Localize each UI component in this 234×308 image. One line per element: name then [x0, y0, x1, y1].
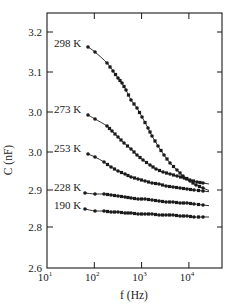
x-tick-label: 103	[132, 270, 147, 283]
data-point	[161, 183, 164, 186]
x-tick-label: 102	[85, 270, 100, 283]
data-point	[146, 126, 150, 130]
series-label: 253 K	[54, 142, 81, 154]
plot-border	[47, 13, 222, 268]
data-point	[93, 155, 97, 159]
data-point	[119, 138, 122, 141]
data-point	[106, 193, 109, 196]
data-point	[150, 181, 154, 185]
data-point	[109, 193, 113, 197]
data-point	[108, 127, 111, 130]
data-point	[113, 194, 116, 197]
data-point	[123, 172, 127, 176]
data-point	[175, 201, 178, 204]
data-point	[164, 184, 168, 188]
data-point	[116, 169, 120, 173]
data-point	[86, 152, 90, 156]
data-point	[143, 197, 147, 201]
data-point	[143, 179, 147, 183]
data-point	[132, 102, 135, 105]
data-point	[150, 198, 154, 202]
y-tick-label: 3.0	[28, 146, 42, 158]
y-axis-title: C (nF)	[2, 145, 15, 176]
data-point	[136, 197, 140, 201]
data-point	[140, 212, 143, 215]
data-point	[129, 147, 133, 151]
data-point	[148, 130, 151, 133]
data-point	[158, 169, 161, 172]
data-point	[111, 69, 115, 73]
data-point	[102, 209, 106, 213]
data-point	[116, 194, 120, 198]
data-point	[126, 174, 129, 177]
data-point	[132, 150, 135, 153]
y-tick-label: 2.6	[28, 262, 42, 274]
data-point	[161, 170, 165, 174]
fit-line	[88, 47, 209, 191]
series-label: 190 K	[54, 199, 81, 211]
y-tick-label: 3.1	[28, 66, 42, 78]
data-point	[133, 212, 136, 215]
data-point	[129, 196, 133, 200]
data-point	[140, 115, 144, 119]
data-point	[161, 213, 164, 216]
data-point	[189, 188, 192, 191]
data-point	[189, 215, 192, 218]
y-tick-label: 2.8	[28, 221, 42, 233]
data-point	[189, 202, 192, 205]
data-point	[135, 106, 139, 110]
data-point	[178, 201, 182, 205]
data-point	[147, 180, 150, 183]
data-point	[105, 61, 109, 65]
data-point	[201, 189, 205, 193]
data-point	[93, 192, 97, 196]
data-point	[154, 182, 157, 185]
data-point	[122, 141, 126, 145]
data-point	[185, 214, 189, 218]
data-point	[195, 180, 199, 184]
data-point	[182, 214, 185, 217]
data-point	[126, 211, 129, 214]
data-point	[162, 153, 166, 157]
series-label: 298 K	[54, 37, 81, 49]
data-series	[83, 45, 209, 219]
x-axis-title: f (Hz)	[120, 289, 148, 302]
data-point	[120, 171, 123, 174]
data-point	[182, 176, 186, 180]
data-point	[182, 201, 185, 204]
data-point	[159, 149, 162, 152]
data-point	[164, 213, 168, 217]
data-point	[86, 45, 90, 49]
data-point	[201, 203, 205, 207]
data-point	[118, 79, 121, 82]
data-point	[197, 215, 200, 218]
data-point	[201, 181, 205, 185]
data-point	[102, 160, 106, 164]
data-point	[106, 163, 109, 166]
data-point	[140, 197, 143, 200]
data-point	[168, 161, 172, 165]
data-point	[113, 132, 116, 135]
data-point	[126, 144, 129, 147]
data-point	[198, 185, 201, 188]
data-point	[154, 199, 157, 202]
data-point	[185, 177, 188, 180]
data-point	[192, 188, 196, 192]
data-point	[182, 187, 185, 190]
data-point	[126, 196, 129, 199]
data-point	[175, 174, 179, 178]
data-point	[171, 200, 175, 204]
data-point	[147, 212, 150, 215]
series-298k	[86, 45, 209, 190]
data-point	[83, 191, 87, 195]
data-point	[135, 153, 139, 157]
data-point	[116, 135, 120, 139]
data-point	[150, 212, 154, 216]
series-273k	[86, 113, 209, 185]
data-point	[168, 213, 171, 216]
data-point	[165, 157, 168, 160]
series-labels: 298 K273 K253 K228 K190 K	[54, 37, 81, 211]
data-point	[161, 200, 164, 203]
data-point	[123, 211, 127, 215]
capacitance-vs-frequency-chart: 101102103104 3.23.13.03.02.92.82.6 298 K…	[0, 0, 234, 308]
